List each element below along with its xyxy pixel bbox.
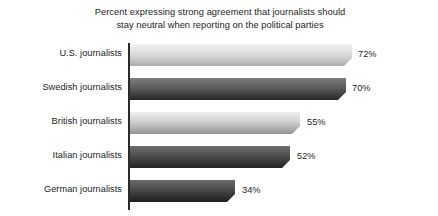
bar-row: Italian journalists 52%: [0, 146, 438, 168]
bar-value-label: 34%: [242, 185, 261, 195]
bar-shape-icon: [130, 44, 352, 66]
bar-3[interactable]: [130, 146, 290, 168]
bar-category-label: Italian journalists: [53, 150, 122, 160]
bar-shape-icon: [130, 78, 346, 100]
bar-2[interactable]: [130, 112, 300, 134]
bar-value-label: 55%: [307, 117, 326, 127]
chart-title: Percent expressing strong agreement that…: [80, 6, 360, 31]
bar-row: Swedish journalists 70%: [0, 78, 438, 100]
bar-chart: Percent expressing strong agreement that…: [0, 0, 438, 216]
bar-value-label: 72%: [358, 49, 377, 59]
bar-shape-icon: [130, 180, 235, 202]
bar-category-label: German journalists: [44, 184, 122, 194]
bar-0[interactable]: [130, 44, 352, 66]
bar-shape-icon: [130, 146, 290, 168]
bar-1[interactable]: [130, 78, 346, 100]
bar-category-label: Swedish journalists: [42, 82, 122, 92]
plot-area: U.S. journalists 72% Swedi: [0, 40, 438, 216]
bar-value-label: 52%: [297, 151, 316, 161]
bar-shape-icon: [130, 112, 300, 134]
bar-4[interactable]: [130, 180, 235, 202]
bar-row: German journalists 34%: [0, 180, 438, 202]
bar-row: U.S. journalists 72%: [0, 44, 438, 66]
chart-title-line-1: Percent expressing strong agreement that…: [80, 6, 360, 19]
bar-category-label: U.S. journalists: [59, 48, 122, 58]
bar-row: British journalists 55%: [0, 112, 438, 134]
bar-value-label: 70%: [352, 83, 371, 93]
bar-category-label: British journalists: [52, 116, 122, 126]
chart-title-line-2: stay neutral when reporting on the polit…: [80, 19, 360, 32]
